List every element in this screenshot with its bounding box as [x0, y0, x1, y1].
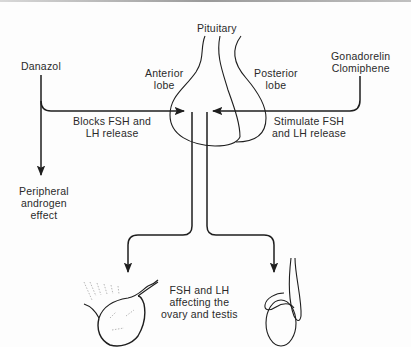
label-clomiphene: Clomiphene	[331, 62, 390, 74]
label-stimulate-line2: and LH release	[272, 127, 346, 139]
label-anterior-lobe: Anterior lobe	[145, 67, 183, 91]
label-peripheral-line2: androgen	[19, 197, 69, 209]
testis-icon	[265, 258, 301, 346]
label-posterior-lobe: Posterior lobe	[254, 67, 298, 91]
label-gonadorelin-clomiphene: Gonadorelin Clomiphene	[331, 50, 390, 74]
label-danazol: Danazol	[21, 60, 61, 72]
diagram-canvas: Pituitary Anterior lobe Posterior lobe D…	[0, 0, 411, 347]
label-gonadorelin: Gonadorelin	[331, 50, 390, 62]
label-blocks-line1: Blocks FSH and	[73, 115, 151, 127]
label-target-organs: FSH and LH affecting the ovary and testi…	[161, 284, 238, 320]
label-peripheral-effect: Peripheral androgen effect	[19, 185, 69, 221]
label-target-line3: ovary and testis	[161, 308, 238, 320]
label-blocks-release: Blocks FSH and LH release	[73, 115, 151, 139]
label-posterior-line1: Posterior	[254, 67, 298, 79]
ovary-icon	[84, 280, 158, 346]
label-peripheral-line3: effect	[19, 209, 69, 221]
label-target-line2: affecting the	[161, 296, 238, 308]
label-pituitary: Pituitary	[197, 22, 237, 34]
pituitary-gland-icon	[170, 36, 266, 146]
label-blocks-line2: LH release	[73, 127, 151, 139]
label-anterior-line2: lobe	[145, 79, 183, 91]
label-target-line1: FSH and LH	[161, 284, 238, 296]
label-posterior-line2: lobe	[254, 79, 298, 91]
label-stimulate-release: Stimulate FSH and LH release	[272, 115, 346, 139]
label-peripheral-line1: Peripheral	[19, 185, 69, 197]
label-anterior-line1: Anterior	[145, 67, 183, 79]
label-stimulate-line1: Stimulate FSH	[272, 115, 346, 127]
